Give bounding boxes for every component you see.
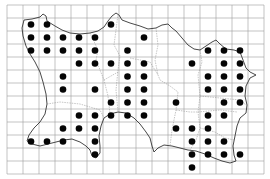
occurrence-dot <box>141 86 148 93</box>
occurrence-dot <box>124 86 131 93</box>
occurrence-dot <box>76 60 83 67</box>
occurrence-dot <box>124 112 131 119</box>
occurrence-dot <box>221 60 228 67</box>
occurrence-dot <box>44 138 51 145</box>
occurrence-dot <box>205 73 212 80</box>
occurrence-dot <box>141 34 148 41</box>
occurrence-dot <box>221 99 228 106</box>
occurrence-dot <box>124 73 131 80</box>
occurrence-dot <box>189 138 196 145</box>
occurrence-dot <box>76 47 83 54</box>
occurrence-dot <box>237 151 244 158</box>
occurrence-dot <box>44 34 51 41</box>
occurrence-dot <box>205 47 212 54</box>
distribution-map <box>0 0 270 179</box>
occurrence-dot <box>189 60 196 67</box>
occurrence-dot <box>28 47 35 54</box>
occurrence-dot <box>76 112 83 119</box>
occurrence-dot <box>141 60 148 67</box>
occurrence-dot <box>221 112 228 119</box>
occurrence-dot <box>141 112 148 119</box>
occurrence-dot <box>237 99 244 106</box>
occurrence-dot <box>92 34 99 41</box>
occurrence-dot <box>60 47 67 54</box>
occurrence-dot <box>92 112 99 119</box>
occurrence-dot <box>92 138 99 145</box>
occurrence-dot <box>173 99 180 106</box>
occurrence-dot <box>124 99 131 106</box>
occurrence-dot <box>28 138 35 145</box>
occurrence-dot <box>60 34 67 41</box>
occurrence-dot <box>108 21 115 28</box>
occurrence-dot <box>60 86 67 93</box>
occurrence-dot <box>141 73 148 80</box>
occurrence-dot <box>108 99 115 106</box>
occurrence-dot <box>189 164 196 171</box>
occurrence-dot <box>76 125 83 132</box>
occurrence-dot <box>92 86 99 93</box>
occurrence-dot <box>108 60 115 67</box>
occurrence-dot <box>173 125 180 132</box>
occurrence-dot <box>189 125 196 132</box>
occurrence-dot <box>44 21 51 28</box>
occurrence-dot <box>237 73 244 80</box>
occurrence-dot <box>124 47 131 54</box>
occurrence-dot <box>28 21 35 28</box>
occurrence-dot <box>124 60 131 67</box>
occurrence-dot <box>205 125 212 132</box>
occurrence-dot <box>60 125 67 132</box>
occurrence-dot <box>92 151 99 158</box>
occurrence-dot <box>141 99 148 106</box>
occurrence-dot <box>221 73 228 80</box>
occurrence-dot <box>60 73 67 80</box>
occurrence-dot <box>44 47 51 54</box>
occurrence-dot <box>189 151 196 158</box>
occurrence-dot <box>205 112 212 119</box>
occurrence-dot <box>205 151 212 158</box>
occurrence-dot <box>28 34 35 41</box>
occurrence-dot <box>221 138 228 145</box>
occurrence-dot <box>237 86 244 93</box>
occurrence-dot <box>221 151 228 158</box>
occurrence-dot <box>92 47 99 54</box>
occurrence-dot <box>76 34 83 41</box>
occurrence-dot <box>92 60 99 67</box>
occurrence-dot <box>92 125 99 132</box>
occurrence-dot <box>205 86 212 93</box>
occurrence-dot <box>221 86 228 93</box>
occurrence-dot <box>237 47 244 54</box>
occurrence-dot <box>237 60 244 67</box>
occurrence-dot <box>205 138 212 145</box>
occurrence-dot <box>221 47 228 54</box>
occurrence-dot <box>108 112 115 119</box>
occurrence-dot <box>60 138 67 145</box>
